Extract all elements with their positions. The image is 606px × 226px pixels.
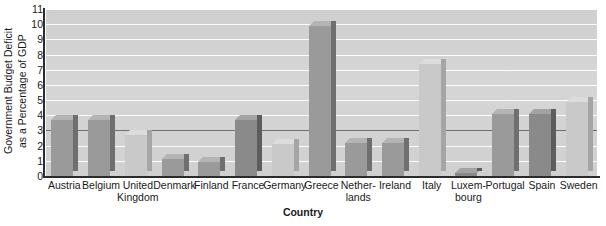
bar-austria bbox=[51, 115, 73, 176]
bar-front-face bbox=[382, 143, 404, 176]
y-tick-7: 7 bbox=[30, 65, 43, 75]
bar-side-face bbox=[514, 109, 519, 171]
bar-side-face bbox=[477, 168, 482, 171]
x-tick-line: Sweden bbox=[554, 180, 603, 192]
bar-side-face bbox=[588, 97, 593, 171]
bar-front-face bbox=[529, 114, 551, 176]
bar-side-face bbox=[331, 21, 336, 171]
x-tick-line: lands bbox=[334, 192, 383, 204]
y-axis-tick-labels: 01234567891011 bbox=[30, 0, 43, 185]
budget-deficit-bar-chart: Government Budget Deficit as a Percentag… bbox=[0, 0, 606, 226]
y-axis-title-line-2: as a Percentage of GDP bbox=[15, 0, 29, 182]
y-tick-11: 11 bbox=[30, 4, 43, 14]
bar-side-face bbox=[294, 139, 299, 171]
y-tick-5: 5 bbox=[30, 95, 43, 105]
bar-denmark bbox=[162, 154, 184, 176]
y-tick-1: 1 bbox=[30, 156, 43, 166]
y-tick-6: 6 bbox=[30, 80, 43, 90]
bar-portugal bbox=[492, 109, 514, 176]
bar-front-face bbox=[492, 114, 514, 176]
bar-side-face bbox=[220, 157, 225, 171]
bar-belgium bbox=[88, 115, 110, 176]
y-axis-title: Government Budget Deficit as a Percentag… bbox=[0, 0, 30, 182]
plot-area bbox=[46, 9, 597, 176]
bar-front-face bbox=[272, 144, 294, 176]
y-axis-line bbox=[43, 8, 45, 178]
bar-front-face bbox=[162, 159, 184, 176]
bar-side-face bbox=[73, 115, 78, 171]
bar-side-face bbox=[110, 115, 115, 171]
y-tick-9: 9 bbox=[30, 34, 43, 44]
x-axis-line bbox=[44, 176, 600, 178]
bar-side-face bbox=[441, 59, 446, 171]
bar-france bbox=[235, 115, 257, 176]
bar-ireland bbox=[382, 138, 404, 176]
bar-front-face bbox=[345, 143, 367, 176]
bar-front-face bbox=[88, 120, 110, 176]
bar-front-face bbox=[419, 64, 441, 176]
bar-side-face bbox=[551, 109, 556, 171]
bar-front-face bbox=[198, 162, 220, 176]
x-axis-title: Country bbox=[0, 206, 606, 218]
bar-side-face bbox=[367, 138, 372, 171]
y-tick-3: 3 bbox=[30, 125, 43, 135]
y-tick-2: 2 bbox=[30, 141, 43, 151]
bar-luxembourg bbox=[455, 168, 477, 176]
bar-front-face bbox=[125, 135, 147, 176]
y-tick-4: 4 bbox=[30, 110, 43, 120]
bar-finland bbox=[198, 157, 220, 176]
x-tick-sweden: Sweden bbox=[554, 180, 603, 192]
y-tick-8: 8 bbox=[30, 50, 43, 60]
bar-germany bbox=[272, 139, 294, 176]
x-tick-line: bourg bbox=[444, 192, 493, 204]
bar-side-face bbox=[147, 130, 152, 171]
gridline-11 bbox=[46, 9, 597, 10]
bar-front-face bbox=[51, 120, 73, 176]
bar-front-face bbox=[309, 26, 331, 176]
bar-italy bbox=[419, 59, 441, 176]
bar-sweden bbox=[566, 97, 588, 176]
bar-side-face bbox=[404, 138, 409, 171]
bar-front-face bbox=[235, 120, 257, 176]
y-axis-title-line-1: Government Budget Deficit bbox=[1, 0, 15, 182]
bar-front-face bbox=[566, 102, 588, 176]
bar-greece bbox=[309, 21, 331, 176]
y-tick-10: 10 bbox=[30, 19, 43, 29]
bar-netherlands bbox=[345, 138, 367, 176]
bar-united-kingdom bbox=[125, 130, 147, 176]
x-tick-line: Kingdom bbox=[113, 192, 162, 204]
bar-side-face bbox=[257, 115, 262, 171]
bar-spain bbox=[529, 109, 551, 176]
bar-side-face bbox=[184, 154, 189, 171]
